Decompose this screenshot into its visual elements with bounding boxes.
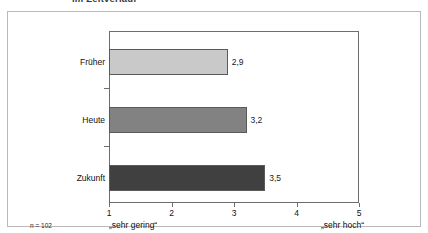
x-axis-tick-label: 4 <box>294 208 299 218</box>
bar-frueher <box>109 49 228 75</box>
bar-zukunft <box>109 165 265 191</box>
x-axis-tick <box>109 203 110 207</box>
x-axis-tick-label: 3 <box>232 208 237 218</box>
chart-title: im Zeitverlauf <box>72 0 137 4</box>
x-axis-tick <box>172 203 173 207</box>
figure-frame: Früher Heute Zukunft 2,9 3,2 3,5 12345 n… <box>7 11 421 227</box>
category-label-heute: Heute <box>35 107 105 133</box>
bar-value-zukunft: 3,5 <box>269 165 281 191</box>
chart-title-strip: im Zeitverlauf <box>0 0 428 9</box>
category-label-frueher: Früher <box>35 49 105 75</box>
scale-anchor-high: „sehr hoch“ <box>321 220 364 230</box>
category-labels: Früher Heute Zukunft <box>34 31 105 203</box>
x-axis-tick-label: 2 <box>169 208 174 218</box>
sample-size-note: n = 102 <box>30 222 52 229</box>
bars-layer: 2,9 3,2 3,5 <box>109 31 359 203</box>
x-axis-tick-label: 5 <box>357 208 362 218</box>
x-axis-tick <box>359 203 360 207</box>
category-label-zukunft: Zukunft <box>35 165 105 191</box>
x-axis-tick-label: 1 <box>107 208 112 218</box>
x-axis-tick <box>234 203 235 207</box>
bar-heute <box>109 107 247 133</box>
bar-value-frueher: 2,9 <box>232 49 244 75</box>
bar-value-heute: 3,2 <box>251 107 263 133</box>
scale-anchor-low: „sehr gering“ <box>109 220 157 230</box>
x-axis-tick <box>297 203 298 207</box>
